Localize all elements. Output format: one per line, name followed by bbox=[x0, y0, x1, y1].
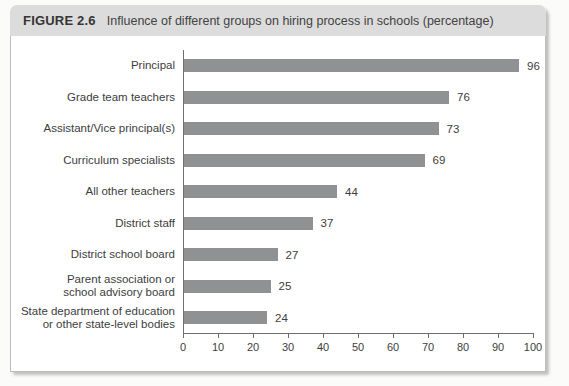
bar-chart: Principal96Grade team teachers76Assistan… bbox=[10, 36, 546, 372]
bar-track: 96 bbox=[183, 50, 545, 82]
bar-row: District staff37 bbox=[11, 208, 545, 240]
x-tick-mark bbox=[183, 334, 184, 338]
figure-header: FIGURE 2.6 Influence of different groups… bbox=[10, 5, 546, 36]
value-label: 69 bbox=[433, 154, 446, 166]
value-label: 27 bbox=[286, 249, 299, 261]
x-tick-mark bbox=[393, 334, 394, 338]
bar bbox=[183, 311, 267, 324]
x-tick-mark bbox=[288, 334, 289, 338]
category-label: All other teachers bbox=[11, 185, 183, 198]
x-tick-label: 40 bbox=[308, 341, 338, 353]
x-tick-label: 50 bbox=[343, 341, 373, 353]
bar-row: State department of education or other s… bbox=[11, 302, 545, 334]
x-tick-mark bbox=[463, 334, 464, 338]
value-label: 37 bbox=[321, 217, 334, 229]
bar-track: 73 bbox=[183, 113, 545, 145]
x-tick-label: 10 bbox=[203, 341, 233, 353]
figure-title: Influence of different groups on hiring … bbox=[107, 14, 494, 28]
value-label: 24 bbox=[275, 312, 288, 324]
x-axis: 0102030405060708090100 bbox=[183, 333, 534, 357]
bar bbox=[183, 185, 337, 198]
bar bbox=[183, 154, 425, 167]
value-label: 25 bbox=[279, 280, 292, 292]
value-label: 76 bbox=[457, 91, 470, 103]
bar-row: Grade team teachers76 bbox=[11, 82, 545, 114]
category-label: Curriculum specialists bbox=[11, 154, 183, 167]
x-tick-mark bbox=[498, 334, 499, 338]
x-tick-label: 30 bbox=[273, 341, 303, 353]
bar-row: Assistant/Vice principal(s)73 bbox=[11, 113, 545, 145]
y-axis-line bbox=[183, 50, 184, 334]
bar-track: 27 bbox=[183, 239, 545, 271]
bar-row: All other teachers44 bbox=[11, 176, 545, 208]
category-label: Parent association or school advisory bo… bbox=[11, 273, 183, 299]
x-tick-mark bbox=[218, 334, 219, 338]
bar-track: 69 bbox=[183, 145, 545, 177]
x-tick-label: 100 bbox=[518, 341, 548, 353]
x-tick-label: 60 bbox=[378, 341, 408, 353]
bar-row: Curriculum specialists69 bbox=[11, 145, 545, 177]
bar-track: 25 bbox=[183, 271, 545, 303]
value-label: 44 bbox=[345, 186, 358, 198]
x-tick-label: 0 bbox=[168, 341, 198, 353]
x-tick-mark bbox=[533, 334, 534, 338]
x-tick-label: 80 bbox=[448, 341, 478, 353]
figure-number-label: FIGURE 2.6 bbox=[23, 13, 96, 28]
bar-track: 37 bbox=[183, 208, 545, 240]
category-label: District staff bbox=[11, 217, 183, 230]
value-label: 73 bbox=[447, 123, 460, 135]
bar bbox=[183, 248, 278, 261]
bar-row: Principal96 bbox=[11, 50, 545, 82]
bar-track: 24 bbox=[183, 302, 545, 334]
figure-card: FIGURE 2.6 Influence of different groups… bbox=[10, 5, 546, 372]
bar-track: 76 bbox=[183, 82, 545, 114]
x-tick-label: 20 bbox=[238, 341, 268, 353]
x-tick-mark bbox=[358, 334, 359, 338]
bar-row: District school board27 bbox=[11, 239, 545, 271]
bar bbox=[183, 122, 439, 135]
category-label: Assistant/Vice principal(s) bbox=[11, 122, 183, 135]
value-label: 96 bbox=[527, 60, 540, 72]
x-tick-label: 70 bbox=[413, 341, 443, 353]
category-label: District school board bbox=[11, 248, 183, 261]
x-tick-label: 90 bbox=[483, 341, 513, 353]
bar-track: 44 bbox=[183, 176, 545, 208]
bar bbox=[183, 59, 519, 72]
bar-rows: Principal96Grade team teachers76Assistan… bbox=[11, 50, 545, 334]
x-tick-mark bbox=[323, 334, 324, 338]
bar bbox=[183, 280, 271, 293]
bar-row: Parent association or school advisory bo… bbox=[11, 271, 545, 303]
category-label: State department of education or other s… bbox=[11, 305, 183, 331]
category-label: Principal bbox=[11, 59, 183, 72]
x-tick-mark bbox=[253, 334, 254, 338]
x-tick-mark bbox=[428, 334, 429, 338]
bar bbox=[183, 91, 449, 104]
bar bbox=[183, 217, 313, 230]
category-label: Grade team teachers bbox=[11, 91, 183, 104]
